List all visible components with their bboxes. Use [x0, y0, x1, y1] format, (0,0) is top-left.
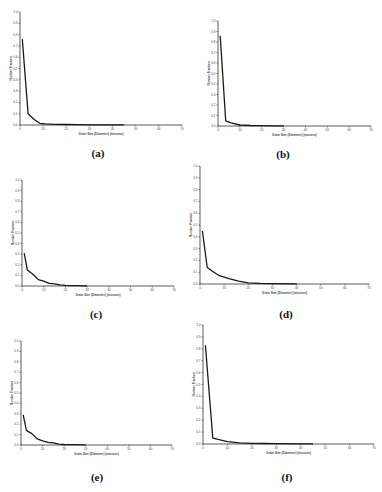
y-tick-label: 0.4 [193, 235, 198, 239]
y-axis-label: Number Fraction [9, 56, 13, 80]
x-tick-label: 20 [247, 286, 251, 290]
y-axis-label: Number Fraction [207, 61, 211, 85]
data-series-line [23, 415, 85, 445]
y-tick-label: 0.3 [15, 252, 20, 256]
x-axis-label: Grain Size (Diameter) (microns) [262, 291, 307, 295]
x-tick-label: 40 [299, 446, 303, 450]
y-tick-label: 0.1 [15, 273, 20, 277]
x-tick-label: 20 [64, 288, 68, 292]
y-tick-label: 0.1 [196, 430, 201, 434]
x-tick-label: 0 [217, 128, 219, 132]
y-tick-label: 0.9 [196, 335, 201, 339]
y-axis-label: Number Fraction [10, 381, 14, 405]
x-axis-label: Grain Size (Diameter) (microns) [266, 451, 311, 455]
x-tick-label: 20 [250, 446, 254, 450]
panel-label: (a) [92, 147, 105, 160]
chart-panel-c: 0.00.10.20.30.40.50.60.70.80.91.00102030… [11, 178, 176, 321]
y-tick-label: 0.0 [211, 124, 216, 128]
y-tick-label: 0.0 [196, 442, 201, 446]
panel-label: (d) [279, 308, 293, 321]
y-tick-label: 0.8 [193, 188, 198, 192]
y-tick-label: 0.1 [193, 270, 198, 274]
x-tick-label: 30 [85, 288, 89, 292]
x-tick-label: 10 [41, 127, 45, 131]
y-tick-label: 0.2 [193, 258, 198, 262]
x-tick-label: 20 [62, 447, 66, 451]
y-tick-label: 0.8 [14, 360, 19, 364]
y-tick-label: 0.6 [14, 381, 19, 385]
x-tick-label: 0 [202, 446, 204, 450]
x-tick-label: 70 [172, 288, 176, 292]
y-tick-label: 0.2 [196, 418, 201, 422]
y-tick-label: 0.7 [13, 44, 18, 48]
x-axis-label: Grain Size (Diameter) (microns) [76, 293, 121, 297]
y-tick-label: 0.9 [13, 21, 18, 25]
chart-panel-d: 0.00.10.20.30.40.50.60.70.80.91.00102030… [189, 164, 371, 321]
y-tick-label: 0.2 [15, 263, 20, 267]
y-tick-label: 0.1 [13, 112, 18, 116]
x-tick-label: 60 [347, 128, 351, 132]
x-tick-label: 60 [149, 447, 153, 451]
y-tick-label: 0.3 [14, 412, 19, 416]
x-tick-label: 40 [304, 128, 308, 132]
x-tick-label: 10 [238, 128, 242, 132]
x-tick-label: 10 [41, 447, 45, 451]
y-tick-label: 0.4 [15, 242, 20, 246]
y-tick-label: 0.8 [211, 40, 216, 44]
y-tick-label: 0.3 [13, 89, 18, 93]
data-series-line [202, 231, 296, 284]
x-tick-label: 40 [107, 288, 111, 292]
x-tick-label: 50 [323, 446, 327, 450]
y-tick-label: 1.0 [13, 10, 18, 14]
y-axis-label: Number Fraction [189, 213, 193, 237]
y-tick-label: 0.7 [14, 370, 19, 374]
x-tick-label: 40 [295, 286, 299, 290]
x-tick-label: 0 [20, 447, 22, 451]
chart-panel-f: 0.00.10.20.30.40.50.60.70.80.91.00102030… [192, 323, 376, 484]
x-tick-label: 10 [222, 286, 226, 290]
y-tick-label: 0.7 [193, 199, 198, 203]
x-tick-label: 60 [343, 286, 347, 290]
x-tick-label: 50 [319, 286, 323, 290]
x-axis-label: Grain Size (Diameter) (microns) [74, 452, 119, 456]
x-tick-label: 10 [42, 288, 46, 292]
y-tick-label: 0.8 [196, 347, 201, 351]
y-axis-label: Number Fraction [192, 372, 196, 396]
chart-panel-e: 0.00.10.20.30.40.50.60.70.80.91.00102030… [10, 339, 174, 484]
x-tick-label: 30 [271, 286, 275, 290]
y-tick-label: 0.3 [193, 247, 198, 251]
y-tick-label: 0.5 [193, 223, 198, 227]
x-tick-label: 60 [348, 446, 352, 450]
x-tick-label: 50 [127, 447, 131, 451]
figure: 0.00.10.20.30.40.50.60.70.80.91.00102030… [0, 0, 382, 492]
x-tick-label: 10 [226, 446, 230, 450]
data-series-line [205, 345, 313, 444]
x-tick-label: 30 [88, 127, 92, 131]
x-tick-label: 40 [111, 127, 115, 131]
y-tick-label: 0.0 [193, 282, 198, 286]
y-tick-label: 0.5 [14, 391, 19, 395]
x-tick-label: 70 [170, 447, 174, 451]
x-tick-label: 50 [134, 127, 138, 131]
x-tick-label: 50 [129, 288, 133, 292]
x-tick-label: 40 [106, 447, 110, 451]
y-tick-label: 0.9 [15, 189, 20, 193]
y-tick-label: 0.4 [211, 82, 216, 86]
y-tick-label: 0.5 [15, 231, 20, 235]
data-series-line [24, 253, 87, 286]
x-tick-label: 70 [367, 286, 371, 290]
y-tick-label: 0.1 [14, 433, 19, 437]
x-tick-label: 70 [369, 128, 373, 132]
x-tick-label: 60 [151, 288, 155, 292]
y-tick-label: 0.5 [196, 383, 201, 387]
y-tick-label: 0.9 [14, 349, 19, 353]
y-tick-label: 1.0 [196, 323, 201, 327]
y-tick-label: 1.0 [15, 178, 20, 182]
x-tick-label: 30 [84, 447, 88, 451]
y-tick-label: 0.6 [211, 61, 216, 65]
panel-label: (c) [90, 308, 103, 321]
chart-panel-b: 0.00.10.20.30.40.50.60.70.80.91.00102030… [207, 19, 373, 161]
y-axis-label: Number Fraction [11, 221, 15, 245]
y-tick-label: 0.0 [14, 443, 19, 447]
y-tick-label: 0.4 [14, 401, 19, 405]
